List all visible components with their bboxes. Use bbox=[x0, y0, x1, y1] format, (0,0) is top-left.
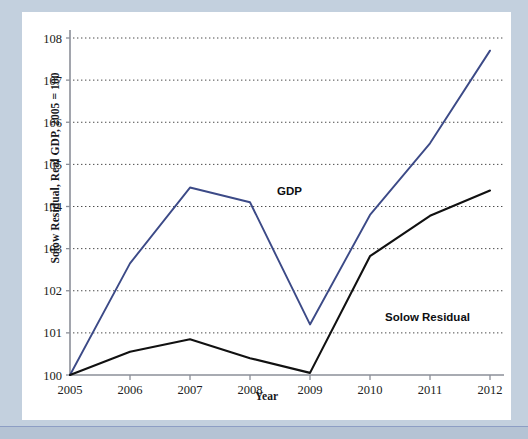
y-tick-label-100: 100 bbox=[43, 369, 62, 383]
x-tick-label-2012: 2012 bbox=[478, 383, 503, 397]
series-label-gdp: GDP bbox=[277, 185, 302, 197]
figure-page: Solow Residual, Real GDP, 2005 = 100 Yea… bbox=[0, 0, 528, 439]
x-tick-label-2011: 2011 bbox=[418, 383, 443, 397]
line-chart: 100101102103104105106107108 200520062007… bbox=[22, 12, 511, 420]
x-tick-label-2007: 2007 bbox=[178, 383, 203, 397]
y-tick-label-103: 103 bbox=[43, 242, 62, 256]
series-label-solow-residual: Solow Residual bbox=[385, 311, 470, 323]
y-tick-label-106: 106 bbox=[43, 116, 62, 130]
y-tick-label-101: 101 bbox=[43, 326, 62, 340]
y-tick-label-105: 105 bbox=[43, 158, 62, 172]
x-tick-label-2005: 2005 bbox=[58, 383, 83, 397]
x-tick-label-2010: 2010 bbox=[358, 383, 383, 397]
x-tick-label-2006: 2006 bbox=[118, 383, 143, 397]
page-edge-strip bbox=[0, 426, 528, 439]
y-tick-label-107: 107 bbox=[43, 74, 62, 88]
chart-card: Solow Residual, Real GDP, 2005 = 100 Yea… bbox=[22, 12, 511, 420]
series-line-gdp bbox=[70, 51, 490, 375]
y-tick-label-104: 104 bbox=[43, 200, 63, 214]
x-tick-label-2009: 2009 bbox=[298, 383, 323, 397]
y-tick-label-102: 102 bbox=[43, 284, 62, 298]
x-axis: 20052006200720082009201020112012 bbox=[58, 375, 505, 397]
y-axis: 100101102103104105106107108 bbox=[43, 30, 70, 383]
series-lines bbox=[70, 51, 490, 375]
series-line-solow-residual bbox=[70, 190, 490, 375]
x-tick-label-2008: 2008 bbox=[238, 383, 263, 397]
y-tick-label-108: 108 bbox=[43, 32, 62, 46]
